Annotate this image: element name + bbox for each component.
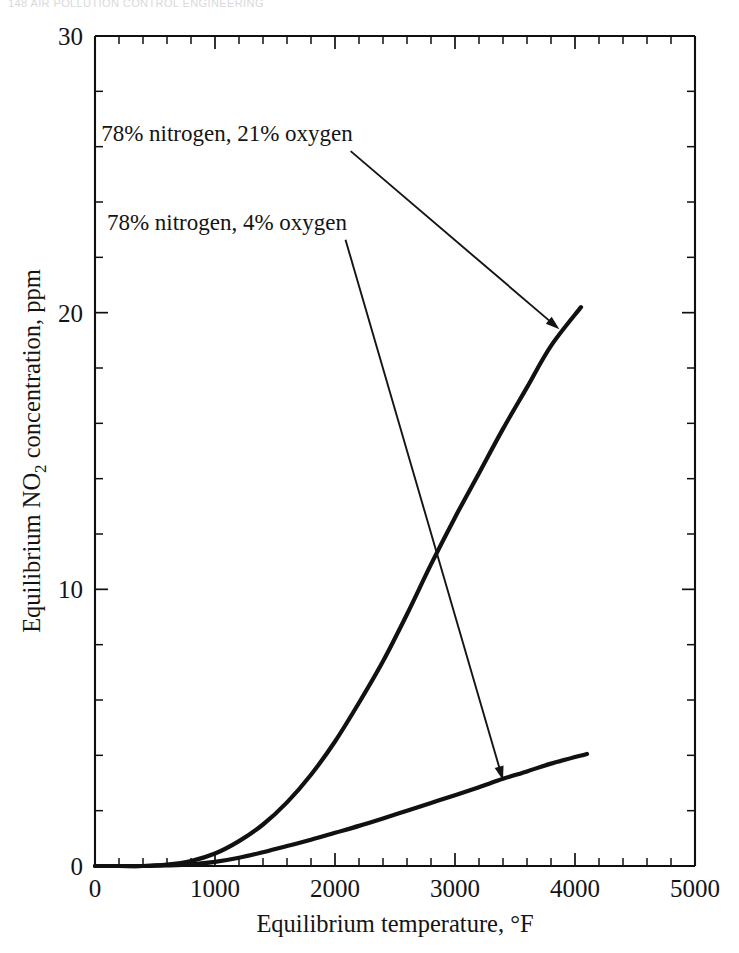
x-axis-top-ticks xyxy=(95,36,695,49)
x-tick-label: 4000 xyxy=(550,875,600,902)
x-tick-label: 5000 xyxy=(670,875,720,902)
y-axis-title: Equilibrium NO2 concentration, ppm xyxy=(18,269,50,633)
x-tick-label: 2000 xyxy=(310,875,360,902)
y-axis-tick-labels: 0102030 xyxy=(58,23,83,880)
x-axis-title: Equilibrium temperature, °F xyxy=(256,910,533,937)
x-tick-label: 1000 xyxy=(190,875,240,902)
curve-annotation-label-2: 78% nitrogen, 4% oxygen xyxy=(107,210,348,235)
x-tick-label: 3000 xyxy=(430,875,480,902)
data-series-group xyxy=(95,307,587,866)
y-tick-label: 30 xyxy=(58,23,83,50)
y-axis-title-suffix: concentration, ppm xyxy=(18,269,45,464)
figure-page: 148 AIR POLLUTION CONTROL ENGINEERING 01… xyxy=(0,0,739,953)
curve-annotation-label-1: 78% nitrogen, 21% oxygen xyxy=(101,121,353,146)
y-tick-label: 0 xyxy=(71,853,84,880)
plot-axes-frame xyxy=(95,36,695,866)
y-tick-label: 20 xyxy=(58,300,83,327)
data-curve-2 xyxy=(95,754,587,866)
chart-canvas: 010002000300040005000 0102030 78% nitrog… xyxy=(0,0,739,953)
annotation-leader-line-1 xyxy=(351,151,551,322)
y-axis-title-subscript: 2 xyxy=(31,464,50,473)
y-axis-title-prefix: Equilibrium NO xyxy=(18,473,45,633)
y-axis-right-ticks xyxy=(682,36,695,866)
data-curve-1 xyxy=(95,307,581,866)
x-axis-tick-labels: 010002000300040005000 xyxy=(89,875,720,902)
y-tick-label: 10 xyxy=(58,576,83,603)
x-tick-label: 0 xyxy=(89,875,102,902)
y-axis-ticks xyxy=(95,36,108,866)
